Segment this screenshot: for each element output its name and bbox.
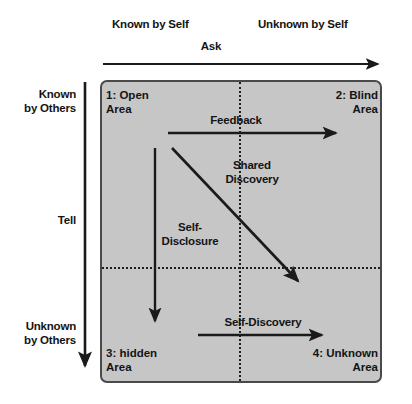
- johari-window-diagram: Known by Self Unknown by Self Ask Known …: [0, 0, 412, 404]
- arrow-layer: [0, 0, 412, 404]
- shared-discovery-arrow: [172, 148, 298, 281]
